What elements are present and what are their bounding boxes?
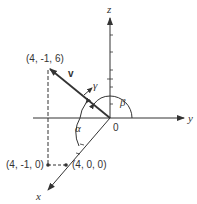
vector-v-label: v [68, 68, 74, 79]
point-4-0-0 [64, 163, 68, 167]
alpha-arc-top [80, 103, 86, 118]
point-label-4-neg1-6: (4, -1, 6) [26, 53, 64, 64]
alpha-label: α [75, 122, 81, 134]
beta-arc-left [94, 96, 110, 104]
y-axis-label: y [187, 112, 193, 124]
point-4-neg1-0 [46, 163, 50, 167]
gamma-arrow [84, 88, 92, 95]
point-label-4-neg1-0: (4, -1, 0) [6, 159, 44, 170]
z-axis [107, 18, 113, 118]
gamma-label: γ [93, 79, 98, 91]
z-axis-label: z [106, 3, 112, 15]
beta-label: β [119, 96, 126, 108]
vector-direction-angles-diagram: z y x 0 v γ β α [0, 0, 197, 204]
vector-v [50, 69, 110, 118]
origin-label: 0 [113, 122, 119, 133]
x-axis-label: x [35, 190, 41, 202]
point-label-4-0-0: (4, 0, 0) [72, 159, 106, 170]
